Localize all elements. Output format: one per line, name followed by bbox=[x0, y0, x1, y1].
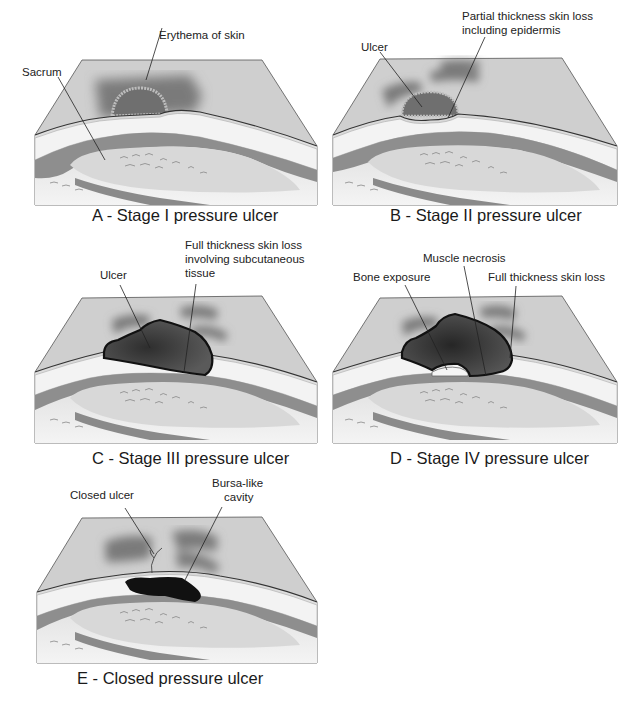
panel-stage-1: Erythema of skin Sacrum A - Stage I pres… bbox=[0, 0, 321, 232]
caption-stage-4: D - Stage IV pressure ulcer bbox=[390, 448, 589, 468]
label-ulcer: Ulcer bbox=[361, 40, 388, 54]
label-cavity: cavity bbox=[224, 490, 253, 504]
label-muscle-necrosis: Muscle necrosis bbox=[423, 251, 505, 265]
label-ulcer: Ulcer bbox=[100, 268, 127, 282]
label-closed-ulcer: Closed ulcer bbox=[70, 488, 134, 502]
panel-closed-ulcer: Closed ulcer Bursa-like cavity E - Close… bbox=[0, 470, 321, 702]
ulcer-crater bbox=[402, 92, 458, 116]
label-partial-thickness-line2: including epidermis bbox=[462, 23, 560, 37]
label-bone-exposure: Bone exposure bbox=[353, 270, 430, 284]
panel-stage-2: Ulcer Partial thickness skin loss includ… bbox=[320, 0, 643, 232]
stage-4-illustration bbox=[320, 230, 643, 470]
label-erythema-of-skin: Erythema of skin bbox=[159, 28, 245, 42]
label-bursa-like: Bursa-like bbox=[212, 476, 263, 490]
caption-stage-3: C - Stage III pressure ulcer bbox=[92, 448, 289, 468]
panel-stage-3: Ulcer Full thickness skin loss involving… bbox=[0, 230, 321, 470]
caption-closed-ulcer: E - Closed pressure ulcer bbox=[77, 668, 263, 688]
label-partial-thickness-line1: Partial thickness skin loss bbox=[462, 9, 593, 23]
stage-3-illustration bbox=[0, 230, 321, 470]
label-full-thickness-line3: tissue bbox=[185, 266, 215, 280]
panel-stage-4: Bone exposure Muscle necrosis Full thick… bbox=[320, 230, 643, 470]
caption-stage-2: B - Stage II pressure ulcer bbox=[390, 205, 582, 225]
label-full-thickness-line1: Full thickness skin loss bbox=[185, 238, 302, 252]
label-full-thickness-skin-loss: Full thickness skin loss bbox=[488, 270, 605, 284]
label-sacrum: Sacrum bbox=[22, 65, 62, 79]
label-full-thickness-line2: involving subcutaneous bbox=[185, 252, 305, 266]
caption-stage-1: A - Stage I pressure ulcer bbox=[92, 205, 278, 225]
